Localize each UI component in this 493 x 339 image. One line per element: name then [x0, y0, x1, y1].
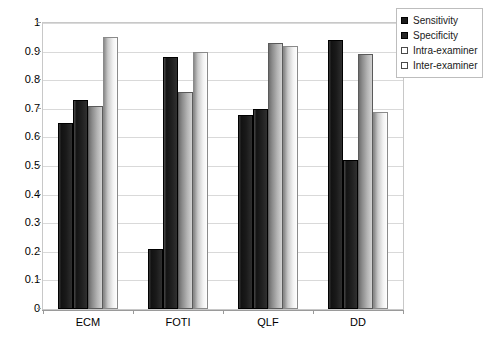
bar-ecm-sensitivity [58, 123, 73, 309]
legend-item-inter-examiner: Inter-examiner [401, 58, 477, 73]
y-axis-tick-mark [37, 222, 41, 223]
y-axis-tick-mark [37, 136, 41, 137]
y-axis-tick-mark [37, 194, 41, 195]
y-axis-tick-mark [37, 79, 41, 80]
bar-dd-inter-examiner [373, 112, 388, 309]
y-axis-tick-mark [37, 308, 41, 309]
legend-item-sensitivity: Sensitivity [401, 13, 477, 28]
bar-qlf-intra-examiner [268, 43, 283, 309]
legend-swatch-icon [401, 32, 408, 39]
legend-label: Specificity [413, 31, 458, 41]
bar-dd-specificity [343, 160, 358, 309]
bar-foti-inter-examiner [193, 52, 208, 309]
legend-swatch-icon [401, 17, 408, 24]
bar-qlf-sensitivity [238, 115, 253, 309]
legend-label: Intra-examiner [413, 46, 477, 56]
bar-ecm-specificity [73, 100, 88, 309]
bar-group-ecm [43, 23, 133, 309]
legend-label: Sensitivity [413, 16, 458, 26]
bar-dd-sensitivity [328, 40, 343, 309]
bar-dd-intra-examiner [358, 54, 373, 309]
y-axis-tick-mark [37, 51, 41, 52]
legend-item-intra-examiner: Intra-examiner [401, 43, 477, 58]
x-axis-tick-mark [133, 310, 134, 314]
legend-label: Inter-examiner [413, 61, 477, 71]
bar-foti-specificity [163, 57, 178, 309]
bar-foti-intra-examiner [178, 92, 193, 309]
y-axis-tick-mark [37, 22, 41, 23]
x-axis-tick-mark [403, 310, 404, 314]
bar-qlf-specificity [253, 109, 268, 309]
y-axis-tick-mark [37, 108, 41, 109]
x-axis-tick-mark [313, 310, 314, 314]
x-axis-category-label: QLF [257, 316, 278, 328]
bar-ecm-inter-examiner [103, 37, 118, 309]
bars-layer [43, 23, 403, 309]
legend-item-specificity: Specificity [401, 28, 477, 43]
y-axis-tick-mark [37, 279, 41, 280]
bar-chart: 00.10.20.30.40.50.60.70.80.91 ECMFOTIQLF… [0, 0, 493, 339]
x-axis-tick-mark [223, 310, 224, 314]
legend-swatch-icon [401, 47, 408, 54]
x-axis-tick-mark [43, 310, 44, 314]
bar-group-foti [133, 23, 223, 309]
y-axis-tick-mark [37, 165, 41, 166]
x-axis-category-label: DD [350, 316, 366, 328]
chart-legend: SensitivitySpecificityIntra-examinerInte… [396, 8, 483, 78]
bar-ecm-intra-examiner [88, 106, 103, 309]
y-axis-tick-mark [37, 251, 41, 252]
y-axis-ticks [0, 22, 42, 310]
legend-swatch-icon [401, 62, 408, 69]
bar-group-qlf [223, 23, 313, 309]
x-axis-category-label: ECM [76, 316, 100, 328]
bar-group-dd [313, 23, 403, 309]
bar-qlf-inter-examiner [283, 46, 298, 309]
x-axis-category-label: FOTI [165, 316, 190, 328]
bar-foti-sensitivity [148, 249, 163, 309]
